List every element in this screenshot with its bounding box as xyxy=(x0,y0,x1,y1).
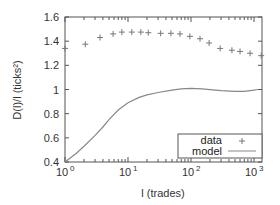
svg-text:2: 2 xyxy=(196,164,201,173)
y-tick-label: 1.4 xyxy=(44,35,59,47)
data-series-points xyxy=(62,29,264,59)
x-tick-label: 10 xyxy=(119,166,131,178)
svg-text:1: 1 xyxy=(133,164,138,173)
x-tick-label: 10 xyxy=(182,166,194,178)
chart: 0.40.60.811.21.41.6 100101102103 l (trad… xyxy=(0,0,280,205)
y-tick-label: 0.6 xyxy=(44,132,59,144)
svg-text:3: 3 xyxy=(259,164,264,173)
legend-label-model: model xyxy=(192,145,222,157)
x-axis-label: l (trades) xyxy=(141,187,184,199)
y-tick-label: 1.2 xyxy=(44,59,59,71)
svg-text:0: 0 xyxy=(70,164,75,173)
y-axis-label: D(l)/l (ticks²) xyxy=(11,60,23,119)
y-tick-label: 0.8 xyxy=(44,108,59,120)
y-tick-label: 1.6 xyxy=(44,11,59,23)
x-tick-label: 10 xyxy=(56,166,68,178)
legend: data model xyxy=(178,134,262,158)
y-tick-label: 1 xyxy=(53,84,59,96)
x-tick-label: 10 xyxy=(245,166,257,178)
